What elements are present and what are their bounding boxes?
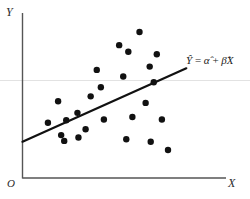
scatter-point: [98, 84, 104, 90]
equation-plus: +: [210, 54, 222, 66]
scatter-point: [154, 51, 160, 57]
scatter-point: [87, 93, 93, 99]
y-axis-label: Y: [6, 6, 13, 18]
scatter-point: [123, 136, 129, 142]
scatter-point: [94, 67, 100, 73]
scatter-point: [75, 134, 81, 140]
regression-equation-label: Ŷ = α̂ + β̂X: [186, 55, 234, 66]
scatter-point: [159, 116, 165, 122]
scatter-point: [129, 114, 135, 120]
scatter-point: [58, 132, 64, 138]
scatter-point: [61, 138, 67, 144]
equation-equals: =: [192, 54, 204, 66]
scatter-point: [148, 139, 154, 145]
equation-x: X: [227, 54, 234, 66]
scatter-point: [45, 120, 51, 126]
scatter-point: [136, 29, 142, 35]
scatter-point: [165, 147, 171, 153]
scatter-point: [55, 98, 61, 104]
x-axis-label: X: [228, 177, 235, 189]
scatter-points-group: [45, 29, 171, 153]
scatter-point: [120, 73, 126, 79]
regression-scatter-figure: Y O X Ŷ = α̂ + β̂X: [0, 0, 250, 199]
scatter-point: [101, 116, 107, 122]
scatter-point: [146, 63, 152, 69]
scatter-point: [125, 49, 131, 55]
scatter-point: [116, 42, 122, 48]
plot-canvas: [0, 0, 250, 199]
fitted-regression-line: [23, 68, 187, 141]
scatter-point: [82, 126, 88, 132]
scatter-point: [142, 100, 148, 106]
origin-label: O: [7, 178, 15, 189]
